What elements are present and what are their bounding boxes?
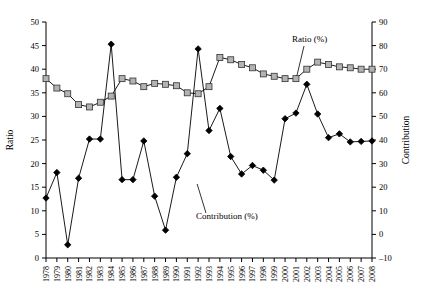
right-axis-tick-label: 90 xyxy=(379,17,388,27)
x-axis-tick-label: 1988 xyxy=(151,266,160,282)
x-axis xyxy=(46,258,372,262)
data-point-marker xyxy=(141,138,147,144)
data-point-marker xyxy=(184,90,190,96)
data-point-marker xyxy=(86,104,92,110)
data-point-marker xyxy=(130,78,136,84)
left-axis-tick-label: 30 xyxy=(31,111,40,121)
data-point-marker xyxy=(141,84,147,90)
data-point-marker xyxy=(336,64,342,70)
data-point-marker xyxy=(239,61,245,67)
left-axis-tick-label: 0 xyxy=(35,253,39,263)
x-axis-tick-label: 1984 xyxy=(107,266,116,282)
data-point-marker xyxy=(75,175,81,181)
dual-axis-line-chart: 05101520253035404550Ratio–10010203040506… xyxy=(0,0,421,301)
left-axis-tick-label: 20 xyxy=(31,159,40,169)
data-point-marker xyxy=(152,80,158,86)
data-point-marker xyxy=(217,105,223,111)
data-point-marker xyxy=(326,61,332,67)
data-point-marker xyxy=(54,85,60,91)
data-point-marker xyxy=(325,134,331,140)
x-axis-tick-label: 1987 xyxy=(140,266,149,282)
data-point-marker xyxy=(151,193,157,199)
x-axis-tick-label: 1991 xyxy=(183,266,192,282)
data-point-marker xyxy=(304,66,310,72)
data-point-marker xyxy=(249,65,255,71)
x-axis-tick-label: 1998 xyxy=(259,266,268,282)
contribution-annotation-label: Contribution (%) xyxy=(196,211,258,221)
data-point-marker xyxy=(163,81,169,87)
x-axis-tick-label: 2005 xyxy=(335,266,344,282)
x-axis-tick-label: 2007 xyxy=(357,266,366,282)
x-axis-tick-label: 1978 xyxy=(42,266,51,282)
right-axis-tick-label: 20 xyxy=(379,182,388,192)
left-axis-tick-label: 15 xyxy=(31,182,40,192)
data-point-marker xyxy=(119,176,125,182)
x-axis-tick-label: 1997 xyxy=(248,266,257,282)
left-axis-tick-label: 5 xyxy=(35,229,39,239)
right-axis-title: Contribution xyxy=(401,115,411,164)
data-point-marker xyxy=(108,41,114,47)
x-axis-tick-label: 1979 xyxy=(53,266,62,282)
data-point-marker xyxy=(336,131,342,137)
x-axis-tick-label: 1981 xyxy=(75,266,84,282)
x-axis-tick-label: 1982 xyxy=(85,266,94,282)
right-axis-tick-label: 10 xyxy=(379,206,388,216)
data-point-marker xyxy=(206,127,212,133)
x-axis-tick-label: 1980 xyxy=(64,266,73,282)
data-point-marker xyxy=(184,150,190,156)
x-axis-tick-label: 1994 xyxy=(216,266,225,282)
x-axis-tick-label: 2006 xyxy=(346,266,355,282)
left-axis-tick-label: 50 xyxy=(31,17,40,27)
x-axis-tick-label: 2001 xyxy=(292,266,301,282)
x-axis-tick-label: 1996 xyxy=(238,266,247,282)
x-axis-tick-label: 1986 xyxy=(129,266,138,282)
data-point-marker xyxy=(130,176,136,182)
data-point-marker xyxy=(369,138,375,144)
x-axis-tick-label: 1989 xyxy=(162,266,171,282)
data-point-marker xyxy=(358,138,364,144)
left-axis-tick-label: 25 xyxy=(31,135,40,145)
data-point-marker xyxy=(173,83,179,89)
left-axis xyxy=(42,22,46,258)
series-ratio xyxy=(43,54,375,110)
x-axis-tick-label: 2002 xyxy=(303,266,312,282)
right-axis-tick-label: 30 xyxy=(379,159,388,169)
data-point-marker xyxy=(315,59,321,65)
x-axis-tick-label: 2008 xyxy=(368,266,377,282)
left-axis-title: Ratio xyxy=(5,129,15,150)
data-point-marker xyxy=(97,99,103,105)
data-point-marker xyxy=(162,227,168,233)
x-axis-tick-label: 2003 xyxy=(314,266,323,282)
data-point-marker xyxy=(173,174,179,180)
data-point-marker xyxy=(282,76,288,82)
right-axis-tick-label: –10 xyxy=(378,253,392,263)
contribution-annotation-leader xyxy=(197,184,206,213)
data-point-marker xyxy=(108,93,114,99)
data-point-marker xyxy=(314,111,320,117)
data-point-marker xyxy=(228,153,234,159)
data-point-marker xyxy=(86,136,92,142)
chart-container: 05101520253035404550Ratio–10010203040506… xyxy=(0,0,421,301)
data-point-marker xyxy=(271,73,277,79)
x-axis-tick-label: 1995 xyxy=(227,266,236,282)
series-line-0 xyxy=(46,57,372,107)
data-point-marker xyxy=(43,195,49,201)
data-point-marker xyxy=(304,81,310,87)
x-axis-tick-label: 2000 xyxy=(281,266,290,282)
x-axis-tick-label: 1983 xyxy=(96,266,105,282)
data-point-marker xyxy=(293,76,299,82)
data-point-marker xyxy=(228,57,234,63)
data-point-marker xyxy=(43,76,49,82)
data-point-marker xyxy=(119,76,125,82)
left-axis-tick-label: 10 xyxy=(31,206,40,216)
data-point-marker xyxy=(195,91,201,97)
ratio-annotation-label: Ratio (%) xyxy=(292,34,327,44)
data-point-marker xyxy=(54,169,60,175)
right-axis-tick-label: 80 xyxy=(379,41,388,51)
x-axis-tick-label: 1999 xyxy=(270,266,279,282)
data-point-marker xyxy=(195,46,201,52)
data-point-marker xyxy=(282,116,288,122)
data-point-marker xyxy=(260,71,266,77)
data-point-marker xyxy=(76,102,82,108)
x-axis-tick-label: 2004 xyxy=(325,266,334,282)
